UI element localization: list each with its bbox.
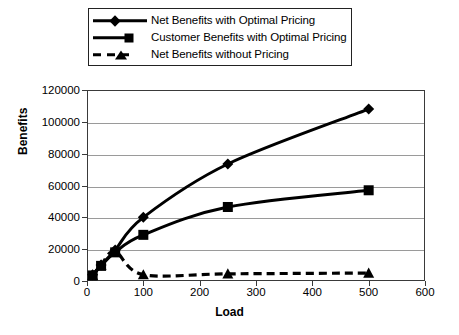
y-axis-title: Benefits <box>16 108 30 155</box>
square-data-marker <box>138 230 148 240</box>
diamond-data-marker <box>363 104 374 115</box>
square-data-marker <box>364 185 374 195</box>
diamond-data-marker <box>222 159 233 170</box>
benefits-vs-load-chart: Net Benefits with Optimal Pricing Custom… <box>0 0 459 335</box>
series-1 <box>88 185 374 280</box>
series-0 <box>87 104 374 281</box>
x-axis-title: Load <box>0 305 459 319</box>
square-data-marker <box>223 202 233 212</box>
series-line <box>93 109 369 275</box>
data-series-layer <box>0 0 459 335</box>
series-line <box>93 251 369 276</box>
series-2 <box>87 246 374 280</box>
